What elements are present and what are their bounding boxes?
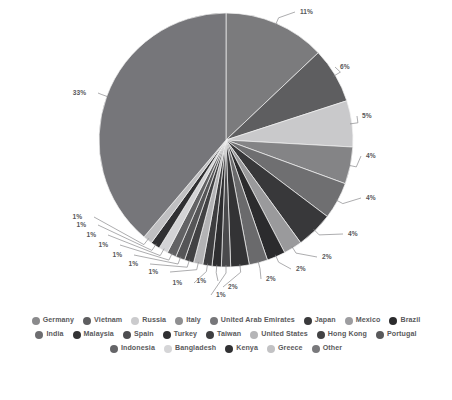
- legend-swatch-icon: [123, 331, 131, 339]
- chart-legend: GermanyVietnamRussiaItalyUnited Arab Emi…: [0, 316, 452, 353]
- legend-swatch-icon: [131, 317, 139, 325]
- legend-item-united-arab-emirates[interactable]: United Arab Emirates: [210, 316, 295, 325]
- pie-value-label-indonesia: 1%: [98, 241, 108, 248]
- pie-slices-group: [99, 13, 353, 267]
- legend-item-label: Brazil: [400, 316, 420, 325]
- legend-item-brazil[interactable]: Brazil: [389, 316, 420, 325]
- legend-swatch-icon: [206, 331, 214, 339]
- legend-item-indonesia[interactable]: Indonesia: [110, 344, 155, 353]
- pie-value-label-spain: 1%: [216, 291, 226, 298]
- legend-item-other[interactable]: Other: [312, 344, 342, 353]
- pie-value-label-vietnam: 6%: [340, 63, 350, 70]
- pie-leader-line: [258, 261, 261, 279]
- legend-swatch-icon: [73, 331, 81, 339]
- pie-value-label-taiwan: 1%: [172, 279, 182, 286]
- legend-swatch-icon: [164, 345, 172, 353]
- legend-swatch-icon: [389, 317, 397, 325]
- legend-item-germany[interactable]: Germany: [32, 316, 74, 325]
- pie-value-label-other: 33%: [73, 89, 86, 96]
- legend-item-india[interactable]: India: [35, 330, 63, 339]
- legend-swatch-icon: [312, 345, 320, 353]
- legend-swatch-icon: [175, 317, 183, 325]
- pie-leader-line: [292, 246, 317, 257]
- legend-swatch-icon: [35, 331, 43, 339]
- legend-item-hong-kong[interactable]: Hong Kong: [317, 330, 367, 339]
- legend-swatch-icon: [83, 317, 91, 325]
- pie-value-label-russia: 5%: [362, 112, 372, 119]
- legend-item-label: Japan: [315, 316, 336, 325]
- legend-item-label: Mexico: [356, 316, 381, 325]
- pie-value-label-japan: 4%: [348, 230, 358, 237]
- legend-item-label: Italy: [186, 316, 201, 325]
- legend-item-portugal[interactable]: Portugal: [376, 330, 417, 339]
- legend-swatch-icon: [210, 317, 218, 325]
- legend-item-japan[interactable]: Japan: [304, 316, 336, 325]
- legend-item-malaysia[interactable]: Malaysia: [73, 330, 114, 339]
- pie-leader-line: [275, 255, 291, 269]
- legend-item-label: Russia: [142, 316, 166, 325]
- legend-item-mexico[interactable]: Mexico: [345, 316, 381, 325]
- legend-swatch-icon: [163, 331, 171, 339]
- legend-item-label: Hong Kong: [328, 330, 367, 339]
- pie-leader-line: [216, 265, 218, 281]
- legend-item-kenya[interactable]: Kenya: [225, 344, 258, 353]
- legend-item-greece[interactable]: Greece: [267, 344, 303, 353]
- legend-item-taiwan[interactable]: Taiwan: [206, 330, 241, 339]
- legend-swatch-icon: [267, 345, 275, 353]
- legend-item-label: United States: [261, 330, 308, 339]
- pie-value-label-hong-kong: 1%: [128, 260, 138, 267]
- legend-item-label: Germany: [43, 316, 74, 325]
- legend-item-label: Kenya: [236, 344, 258, 353]
- pie-value-label-united-states: 1%: [148, 268, 158, 275]
- pie-value-label-kenya: 1%: [76, 221, 86, 228]
- legend-item-label: Taiwan: [217, 330, 241, 339]
- legend-item-turkey[interactable]: Turkey: [163, 330, 197, 339]
- legend-item-russia[interactable]: Russia: [131, 316, 166, 325]
- legend-item-vietnam[interactable]: Vietnam: [83, 316, 122, 325]
- pie-chart-figure: 11%6%5%4%4%4%2%2%2%2%1%1%1%1%1%1%1%1%1%1…: [0, 0, 452, 400]
- legend-item-label: Vietnam: [94, 316, 122, 325]
- pie-value-label-portugal: 1%: [112, 251, 122, 258]
- pie-leader-line: [314, 229, 343, 235]
- pie-value-label-greece: 1%: [72, 213, 82, 220]
- legend-item-label: Greece: [278, 344, 303, 353]
- legend-item-label: United Arab Emirates: [221, 316, 295, 325]
- pie-value-label-india: 2%: [266, 275, 276, 282]
- legend-swatch-icon: [32, 317, 40, 325]
- legend-item-label: Indonesia: [121, 344, 155, 353]
- legend-item-bangladesh[interactable]: Bangladesh: [164, 344, 216, 353]
- legend-row: GermanyVietnamRussiaItalyUnited Arab Emi…: [32, 316, 421, 325]
- pie-value-label-mexico: 2%: [322, 253, 332, 260]
- pie-value-label-italy: 4%: [366, 152, 376, 159]
- legend-swatch-icon: [110, 345, 118, 353]
- legend-item-label: Portugal: [387, 330, 417, 339]
- legend-swatch-icon: [376, 331, 384, 339]
- legend-item-spain[interactable]: Spain: [123, 330, 154, 339]
- pie-value-label-united-arab-emirates: 4%: [366, 194, 376, 201]
- legend-swatch-icon: [250, 331, 258, 339]
- pie-value-label-germany: 11%: [300, 8, 313, 15]
- legend-item-italy[interactable]: Italy: [175, 316, 201, 325]
- legend-item-label: Other: [323, 344, 342, 353]
- legend-item-label: Malaysia: [84, 330, 114, 339]
- pie-value-label-bangladesh: 1%: [86, 231, 96, 238]
- pie-leader-line: [150, 260, 190, 268]
- legend-item-label: Turkey: [174, 330, 197, 339]
- pie-value-label-brazil: 2%: [296, 265, 306, 272]
- pie-value-label-malaysia: 2%: [228, 283, 238, 290]
- legend-item-label: Spain: [134, 330, 154, 339]
- pie-chart-canvas: 11%6%5%4%4%4%2%2%2%2%1%1%1%1%1%1%1%1%1%1…: [0, 0, 452, 316]
- pie-leader-line: [336, 198, 361, 204]
- legend-swatch-icon: [317, 331, 325, 339]
- legend-swatch-icon: [304, 317, 312, 325]
- legend-row: IndiaMalaysiaSpainTurkeyTaiwanUnited Sta…: [35, 330, 416, 339]
- legend-item-label: India: [46, 330, 63, 339]
- legend-swatch-icon: [225, 345, 233, 353]
- legend-row: IndonesiaBangladeshKenyaGreeceOther: [110, 344, 342, 353]
- pie-value-label-turkey: 1%: [196, 277, 206, 284]
- legend-swatch-icon: [345, 317, 353, 325]
- pie-leader-line: [275, 12, 295, 25]
- legend-item-united-states[interactable]: United States: [250, 330, 308, 339]
- legend-item-label: Bangladesh: [175, 344, 216, 353]
